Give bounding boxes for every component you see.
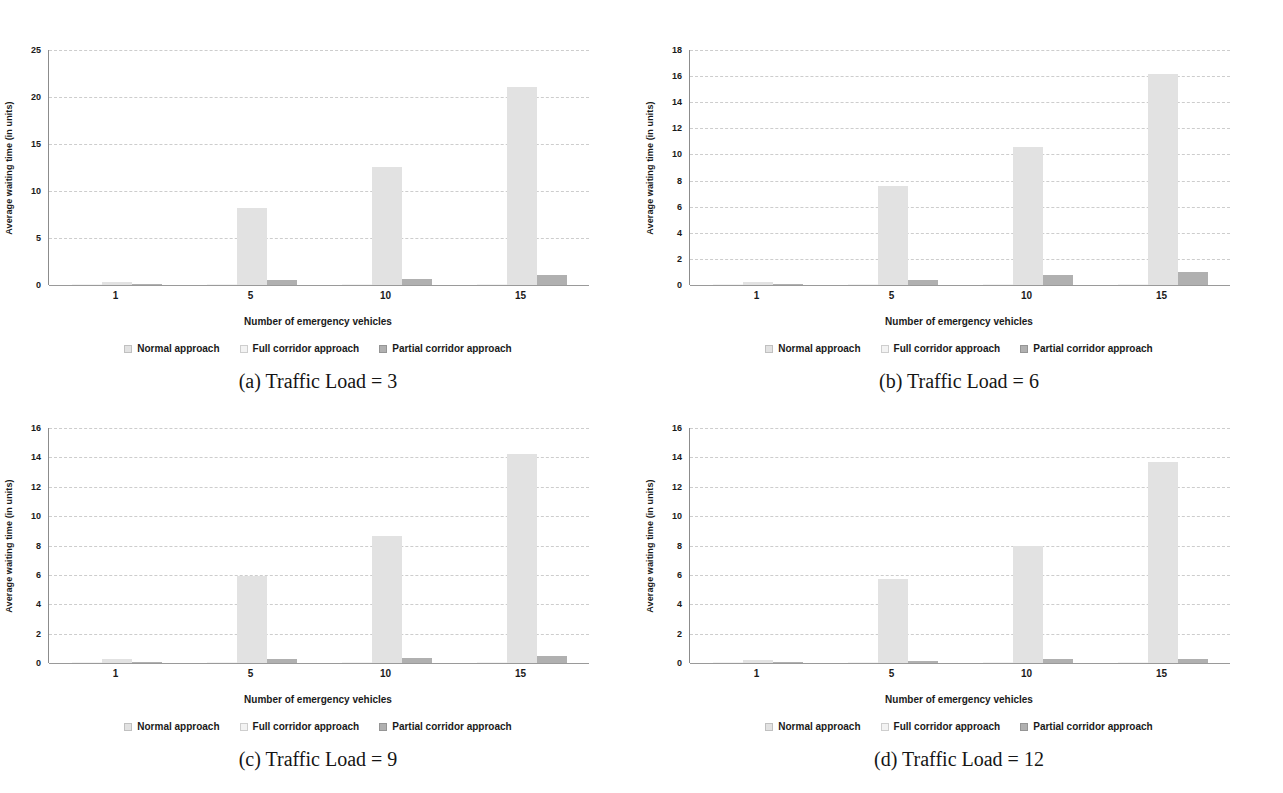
y-tick-label: 10	[31, 186, 41, 196]
bar-groups	[49, 428, 589, 663]
chart-caption: (d) Traffic Load = 12	[689, 746, 1229, 772]
bar-group	[1095, 50, 1230, 285]
bar-partial-corridor-approach	[132, 662, 162, 663]
x-tick-label: 15	[1094, 289, 1229, 303]
y-tick-label: 8	[677, 541, 682, 551]
y-tick-label: 0	[677, 280, 682, 290]
bar-partial-corridor-approach	[1178, 659, 1208, 663]
plot-area	[689, 428, 1230, 663]
y-tick-label: 0	[36, 658, 41, 668]
legend-swatch-icon	[240, 345, 248, 353]
bar-normal-approach	[743, 282, 773, 285]
y-tick-label: 2	[677, 629, 682, 639]
legend-swatch-icon	[124, 345, 132, 353]
x-tick-label: 5	[824, 289, 959, 303]
x-axis-tick-labels: 151015	[48, 667, 588, 681]
bar-group	[1095, 428, 1230, 663]
bar-group	[690, 50, 825, 285]
bar-partial-corridor-approach	[402, 279, 432, 285]
chart-area: Average waiting time (in units) 02468101…	[641, 50, 1282, 285]
bar-normal-approach	[1148, 462, 1178, 663]
legend-swatch-icon	[1020, 723, 1028, 731]
bar-groups	[690, 428, 1230, 663]
bar-full-corridor-approach	[72, 662, 102, 663]
y-tick-label: 16	[31, 423, 41, 433]
legend-label: Full corridor approach	[253, 342, 360, 355]
legend-item-full-corridor-approach: Full corridor approach	[881, 720, 1001, 733]
bar-normal-approach	[102, 282, 132, 285]
x-tick-label: 5	[183, 667, 318, 681]
y-axis-title: Average waiting time (in units)	[641, 428, 659, 663]
legend-swatch-icon	[765, 345, 773, 353]
legend-item-full-corridor-approach: Full corridor approach	[240, 342, 360, 355]
y-tick-label: 8	[36, 541, 41, 551]
y-axis-title-text: Average waiting time (in units)	[645, 101, 655, 234]
bar-full-corridor-approach	[72, 284, 102, 285]
x-tick-label: 10	[318, 667, 453, 681]
legend-item-normal-approach: Normal approach	[124, 342, 219, 355]
legend: Normal approach Full corridor approach P…	[48, 342, 588, 355]
bar-normal-approach	[1148, 74, 1178, 286]
x-tick-label: 10	[318, 289, 453, 303]
chart-area: Average waiting time (in units) 02468101…	[0, 428, 641, 663]
bar-group	[319, 428, 454, 663]
bar-normal-approach	[878, 186, 908, 285]
legend-item-normal-approach: Normal approach	[765, 720, 860, 733]
legend-label: Full corridor approach	[894, 720, 1001, 733]
x-axis-line	[49, 285, 589, 286]
x-axis-line	[690, 663, 1230, 664]
bar-full-corridor-approach	[342, 284, 372, 285]
y-tick-label: 14	[672, 97, 682, 107]
bar-full-corridor-approach	[848, 284, 878, 285]
bar-normal-approach	[372, 167, 402, 285]
bar-normal-approach	[1013, 546, 1043, 664]
y-tick-label: 10	[31, 511, 41, 521]
bar-normal-approach	[878, 579, 908, 663]
chart-panel-d: Average waiting time (in units) 02468101…	[641, 398, 1282, 776]
plot-area	[48, 428, 589, 663]
x-tick-label: 10	[959, 667, 1094, 681]
bar-normal-approach	[237, 208, 267, 285]
legend-swatch-icon	[881, 723, 889, 731]
bar-group	[690, 428, 825, 663]
bar-full-corridor-approach	[477, 284, 507, 285]
y-axis-title-text: Average waiting time (in units)	[4, 479, 14, 612]
chart-panel-b: Average waiting time (in units) 02468101…	[641, 20, 1282, 398]
bar-group	[960, 428, 1095, 663]
x-tick-label: 15	[453, 667, 588, 681]
bar-normal-approach	[1013, 147, 1043, 285]
y-axis-title: Average waiting time (in units)	[641, 50, 659, 285]
bar-partial-corridor-approach	[1178, 272, 1208, 285]
bar-full-corridor-approach	[207, 662, 237, 663]
y-tick-label: 14	[672, 452, 682, 462]
bar-normal-approach	[743, 660, 773, 663]
bar-partial-corridor-approach	[908, 661, 938, 663]
y-axis-tick-labels: 0246810121416	[18, 428, 48, 663]
y-tick-label: 14	[31, 452, 41, 462]
legend-label: Normal approach	[778, 342, 860, 355]
legend-swatch-icon	[379, 723, 387, 731]
bar-full-corridor-approach	[983, 284, 1013, 285]
y-tick-label: 4	[36, 599, 41, 609]
y-axis-tick-labels: 0510152025	[18, 50, 48, 285]
y-axis-title: Average waiting time (in units)	[0, 50, 18, 285]
x-tick-label: 1	[48, 667, 183, 681]
bar-group	[454, 50, 589, 285]
x-tick-label: 10	[959, 289, 1094, 303]
x-tick-label: 1	[48, 289, 183, 303]
legend-label: Normal approach	[137, 342, 219, 355]
x-tick-label: 1	[689, 289, 824, 303]
bar-full-corridor-approach	[477, 662, 507, 663]
bar-full-corridor-approach	[848, 662, 878, 663]
legend-label: Full corridor approach	[253, 720, 360, 733]
bar-partial-corridor-approach	[773, 662, 803, 663]
x-axis-line	[49, 663, 589, 664]
bar-full-corridor-approach	[207, 284, 237, 285]
bar-group	[184, 50, 319, 285]
figure-grid: Average waiting time (in units) 05101520…	[0, 0, 1283, 776]
chart-caption: (c) Traffic Load = 9	[48, 746, 588, 772]
plot-area	[48, 50, 589, 285]
bar-full-corridor-approach	[1118, 284, 1148, 285]
y-tick-label: 2	[36, 629, 41, 639]
y-tick-label: 0	[36, 280, 41, 290]
